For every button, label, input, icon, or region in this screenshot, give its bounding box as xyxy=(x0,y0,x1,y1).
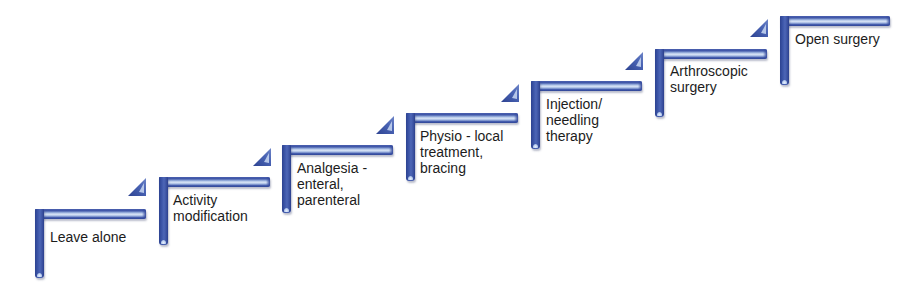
triangle-arrow-icon xyxy=(750,19,768,37)
step-2-label: Activity modification xyxy=(173,192,248,224)
triangle-arrow-icon xyxy=(376,116,394,134)
step-3-riser xyxy=(282,145,291,213)
step-4-tread xyxy=(406,113,518,123)
step-6-tread xyxy=(655,49,767,59)
step-1-label: Leave alone xyxy=(50,229,126,245)
triangle-arrow-icon xyxy=(128,178,146,196)
step-7-riser xyxy=(780,16,789,85)
step-5-tread xyxy=(531,81,642,91)
step-1-riser xyxy=(35,209,44,278)
step-6-label: Arthroscopic surgery xyxy=(670,63,748,95)
step-4-label: Physio - local treatment, bracing xyxy=(420,128,503,176)
triangle-arrow-icon xyxy=(501,84,519,102)
staircase-diagram: Leave alone Activity modification xyxy=(0,0,922,295)
step-3-tread xyxy=(282,145,393,155)
step-3-label: Analgesia - enteral, parenteral xyxy=(297,160,367,208)
triangle-arrow-icon xyxy=(253,148,271,166)
step-2-tread xyxy=(159,177,270,187)
step-1-tread xyxy=(35,209,146,219)
step-5-riser xyxy=(531,81,540,149)
step-4-riser xyxy=(406,113,415,181)
step-7-label: Open surgery xyxy=(795,31,880,47)
triangle-arrow-icon xyxy=(625,52,643,70)
step-2-riser xyxy=(159,177,168,245)
step-7-tread xyxy=(780,16,890,26)
step-5-label: Injection/ needling therapy xyxy=(546,96,602,144)
step-6-riser xyxy=(655,49,664,117)
